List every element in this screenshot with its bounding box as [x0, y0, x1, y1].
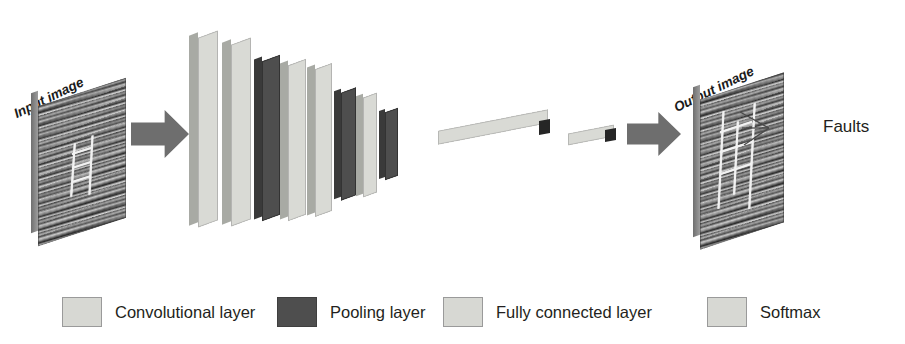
legend-swatch-pooling: [277, 297, 317, 327]
legend-label-softmax: Softmax: [760, 303, 821, 322]
faults-label: Faults: [823, 117, 869, 137]
diagram-canvas: Input image: [0, 0, 905, 344]
legend-item-pooling-layer: Pooling layer: [277, 297, 425, 327]
legend-item-convolutional-layer: Convolutional layer: [62, 297, 255, 327]
legend-swatch-softmax: [707, 297, 747, 327]
legend-label-fully-connected: Fully connected layer: [496, 303, 652, 322]
legend-item-softmax: Softmax: [707, 297, 821, 327]
legend-label-convolutional: Convolutional layer: [115, 303, 255, 322]
faults-leader-line: [740, 112, 769, 128]
legend-swatch-fully-connected: [443, 297, 483, 327]
legend-item-fully-connected-layer: Fully connected layer: [443, 297, 652, 327]
legend-label-pooling: Pooling layer: [330, 303, 425, 322]
legend: Convolutional layer Pooling layer Fully …: [0, 292, 905, 332]
legend-swatch-convolutional: [62, 297, 102, 327]
faults-leader-line: [744, 128, 769, 145]
